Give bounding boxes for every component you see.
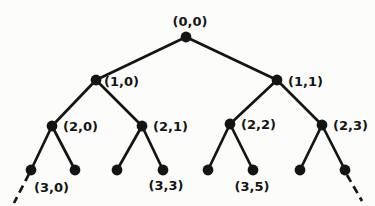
node-label: (2,2) xyxy=(241,117,276,132)
tree-node xyxy=(137,121,148,132)
tree-dashed-edge xyxy=(14,174,29,203)
tree-svg: (0,0)(1,0)(1,1)(2,0)(2,1)(2,2)(2,3)(3,0)… xyxy=(0,0,375,206)
tree-node xyxy=(248,165,259,176)
tree-node xyxy=(91,75,102,86)
node-label: (2,0) xyxy=(63,119,98,134)
node-label: (2,1) xyxy=(153,119,188,134)
tree-dashed-edge xyxy=(347,175,362,201)
tree-edge xyxy=(31,126,52,170)
node-label: (1,0) xyxy=(104,74,139,89)
tree-node xyxy=(317,120,328,131)
tree-node xyxy=(112,165,123,176)
node-label: (3,5) xyxy=(235,179,270,194)
node-label: (2,3) xyxy=(333,118,368,133)
tree-node xyxy=(272,75,283,86)
node-label: (3,3) xyxy=(149,178,184,193)
tree-node xyxy=(340,165,351,176)
tree-edge xyxy=(186,37,277,80)
tree-node xyxy=(70,165,81,176)
node-label: (3,0) xyxy=(34,180,69,195)
tree-diagram: (0,0)(1,0)(1,1)(2,0)(2,1)(2,2)(2,3)(3,0)… xyxy=(0,0,375,206)
tree-node xyxy=(225,119,236,130)
tree-edge xyxy=(300,125,322,170)
tree-node xyxy=(158,165,169,176)
tree-node xyxy=(295,165,306,176)
tree-node xyxy=(203,165,214,176)
node-label: (1,1) xyxy=(288,74,323,89)
tree-node xyxy=(26,165,37,176)
tree-node xyxy=(181,32,192,43)
tree-edge xyxy=(208,124,230,170)
tree-node xyxy=(47,121,58,132)
node-label: (0,0) xyxy=(173,14,208,29)
tree-edge xyxy=(117,126,142,170)
